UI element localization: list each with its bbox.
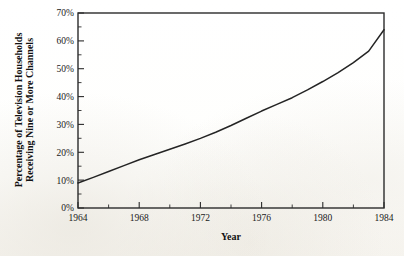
x-tick-label: 1976	[252, 213, 271, 223]
chart-figure: 0% 10% 20% 30% 40% 50% 60% 70% 1964 1968…	[0, 0, 404, 256]
x-tick-label: 1984	[375, 213, 394, 223]
x-tick-label: 1972	[191, 213, 210, 223]
y-tick-label: 30%	[57, 120, 75, 130]
y-tick-label: 10%	[57, 176, 75, 186]
plot-frame	[78, 13, 384, 208]
x-tick-labels: 1964 1968 1972 1976 1980 1984	[69, 213, 394, 223]
y-tick-label: 70%	[57, 8, 75, 18]
y-tick-label: 20%	[57, 148, 75, 158]
y-tick-label: 60%	[57, 36, 75, 46]
line-chart: 0% 10% 20% 30% 40% 50% 60% 70% 1964 1968…	[0, 0, 404, 256]
x-tick-label: 1980	[313, 213, 332, 223]
x-tick-label: 1964	[69, 213, 88, 223]
y-axis-title-line2: Receiving Nine or More Channels	[24, 38, 35, 182]
x-tick-label: 1968	[130, 213, 149, 223]
y-axis-title-line1: Percentage of Television Households	[13, 33, 24, 188]
y-tick-label: 0%	[61, 203, 74, 213]
y-tick-label: 50%	[57, 64, 75, 74]
y-tick-labels: 0% 10% 20% 30% 40% 50% 60% 70%	[57, 8, 75, 213]
x-axis-title: Year	[221, 231, 242, 242]
data-series-line	[78, 30, 384, 183]
y-tick-label: 40%	[57, 92, 75, 102]
